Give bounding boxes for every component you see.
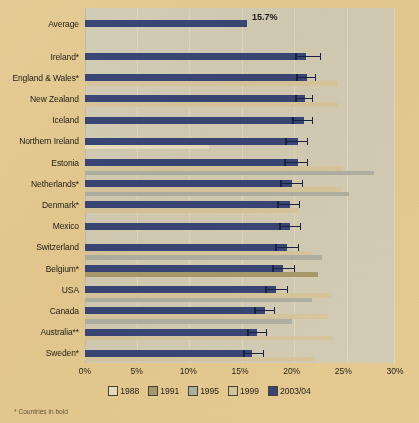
bar-belgium-1991 [85,272,318,277]
bar-englandwales-1999 [85,81,338,86]
value-axis: 0%5%10%15%20%25%30% [0,366,419,380]
error-cap-high [307,138,308,145]
error-cap-high [312,95,313,102]
error-cap-high [307,159,308,166]
category-label-englandwales: England & Wales* [12,73,79,83]
bar-mexico-2003-04 [85,223,290,230]
error-cap-high [274,307,275,314]
error-bar-estonia [284,159,308,166]
category-label-denmark: Denmark* [42,200,79,210]
x-tick-10: 10% [180,366,197,376]
error-line [243,353,264,354]
legend-label-1995: 1995 [200,386,219,396]
legend-item-1991[interactable]: 1991 [148,386,179,396]
error-line [265,289,288,290]
category-label-average: Average [48,19,79,29]
category-label-mexico: Mexico [53,221,79,231]
legend-label-1991: 1991 [160,386,179,396]
bar-newzealand-2003-04 [85,95,305,102]
category-label-belgium: Belgium* [46,264,79,274]
legend-swatch-1995 [188,386,198,396]
error-cap-high [302,180,303,187]
error-line [292,120,314,121]
error-line [284,162,308,163]
error-bar-switzerland [275,244,299,251]
bar-estonia-2003-04 [85,159,298,166]
category-label-australia: Australia** [40,327,79,337]
error-cap-high [298,244,299,251]
error-line [280,183,303,184]
bar-newzealand-1999 [85,102,338,107]
chart-legend: 19881991199519992003/04 [0,386,419,396]
bar-northernireland-2003-04 [85,138,298,145]
average-value-label: 15.7% [252,12,278,22]
error-cap-high [315,74,316,81]
error-cap-high [312,117,313,124]
bar-sweden-1999 [85,357,315,362]
category-label-canada: Canada [50,306,79,316]
error-cap-high [320,53,321,60]
bar-netherlands-2003-04 [85,180,292,187]
error-cap-high [263,350,264,357]
error-bar-mexico [279,223,301,230]
error-line [277,204,300,205]
error-bar-sweden [243,350,264,357]
bar-sweden-2003-04 [85,350,252,357]
bar-usa-2003-04 [85,286,276,293]
legend-label-1988: 1988 [120,386,139,396]
legend-label-1999: 1999 [240,386,259,396]
x-tick-5: 5% [131,366,143,376]
legend-item-1988[interactable]: 1988 [108,386,139,396]
error-bar-australia [247,329,267,336]
gridline-25 [347,8,348,363]
error-line [272,268,295,269]
category-label-netherlands: Netherlands* [31,179,79,189]
plot-area [85,8,395,363]
bar-canada-1995 [85,319,292,324]
bar-estonia-1995 [85,171,374,176]
bar-ireland-2003-04 [85,53,306,60]
bar-denmark-2003-04 [85,201,290,208]
error-cap-high [294,265,295,272]
gridline-30 [394,8,395,363]
category-axis-labels: AverageIreland*England & Wales*New Zeala… [0,8,82,363]
legend-item-1995[interactable]: 1995 [188,386,219,396]
x-tick-30: 30% [386,366,403,376]
bar-denmark-1999 [85,208,298,213]
bar-australia-1999 [85,336,333,341]
category-label-newzealand: New Zealand [30,94,79,104]
x-tick-0: 0% [79,366,91,376]
legend-item-1999[interactable]: 1999 [228,386,259,396]
x-tick-20: 20% [283,366,300,376]
error-line [247,332,267,333]
x-tick-15: 15% [231,366,248,376]
category-label-usa: USA [62,285,79,295]
error-bar-newzealand [295,95,314,102]
error-bar-englandwales [296,74,317,81]
legend-swatch-2003-04 [268,386,278,396]
legend-swatch-1988 [108,386,118,396]
category-label-northernireland: Northern Ireland [19,136,79,146]
bar-northernireland-1988 [85,145,209,150]
error-line [279,226,301,227]
category-label-sweden: Sweden* [46,348,79,358]
error-bar-usa [265,286,288,293]
chart-footnote: * Countries in bold [14,408,414,416]
error-bar-northernireland [285,138,308,145]
bar-englandwales-2003-04 [85,74,307,81]
bar-australia-2003-04 [85,329,257,336]
error-bar-netherlands [280,180,303,187]
error-cap-high [299,201,300,208]
category-label-estonia: Estonia [51,158,79,168]
error-bar-denmark [277,201,300,208]
error-cap-high [266,329,267,336]
burglary-rate-bar-chart: AverageIreland*England & Wales*New Zeala… [0,0,419,423]
bar-belgium-2003-04 [85,265,283,272]
bar-canada-2003-04 [85,307,265,314]
error-line [296,77,317,78]
error-line [295,56,321,57]
legend-item-2003-04[interactable]: 2003/04 [268,386,311,396]
bar-average-2003-04 [85,20,247,27]
bar-iceland-2003-04 [85,117,304,124]
bar-switzerland-1995 [85,255,322,260]
